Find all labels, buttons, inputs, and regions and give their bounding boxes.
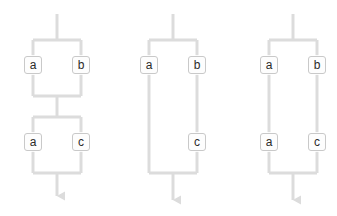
diagram-1-lines — [33, 14, 81, 196]
node-label: c — [78, 136, 84, 148]
node-label: a — [266, 136, 273, 148]
flow-lines-layer — [0, 0, 337, 216]
diagram-2-lines — [149, 14, 197, 200]
node-label: a — [266, 59, 273, 71]
node-box-d2-left-a[interactable]: a — [140, 56, 158, 74]
node-box-d3-left-a1[interactable]: a — [260, 56, 278, 74]
node-box-d1-b2-right[interactable]: c — [72, 133, 90, 151]
node-label: b — [78, 59, 85, 71]
node-label: c — [314, 136, 320, 148]
node-label: b — [314, 59, 321, 71]
node-label: b — [194, 59, 201, 71]
node-box-d1-b1-left[interactable]: a — [24, 56, 42, 74]
node-label: a — [30, 136, 37, 148]
node-box-d2-right-b[interactable]: b — [188, 56, 206, 74]
node-label: a — [146, 59, 153, 71]
node-label: a — [30, 59, 37, 71]
node-box-d1-b2-left[interactable]: a — [24, 133, 42, 151]
diagram-3-lines — [269, 14, 317, 200]
node-box-d2-right-c[interactable]: c — [188, 133, 206, 151]
diagram-canvas: a b a c a b c a b a c — [0, 0, 337, 216]
node-box-d3-right-b[interactable]: b — [308, 56, 326, 74]
node-box-d3-right-c[interactable]: c — [308, 133, 326, 151]
node-label: c — [194, 136, 200, 148]
node-box-d1-b1-right[interactable]: b — [72, 56, 90, 74]
node-box-d3-left-a2[interactable]: a — [260, 133, 278, 151]
